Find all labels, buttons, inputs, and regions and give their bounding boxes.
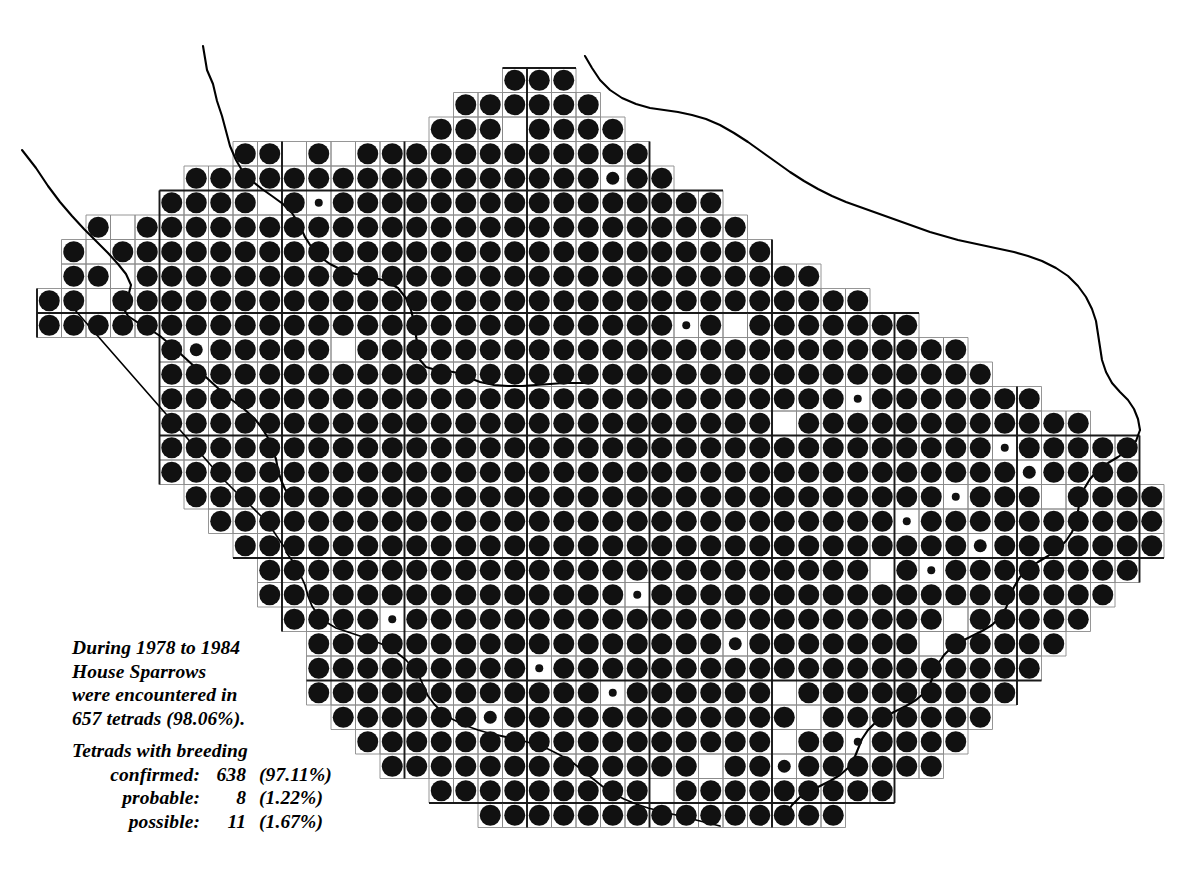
tetrad-dot-confirmed [798, 339, 819, 360]
tetrad-dot-confirmed [1043, 413, 1064, 434]
legend-row-probable: probable:8(1.22%) [72, 786, 402, 810]
tetrad-dot-confirmed [161, 388, 182, 409]
tetrad-dot-confirmed [872, 756, 893, 777]
tetrad-dot-confirmed [284, 241, 305, 262]
tetrad-dot-confirmed [357, 486, 378, 507]
tetrad-dot-confirmed [700, 560, 721, 581]
legend-percent-probable: (1.22%) [246, 786, 359, 810]
tetrad-dot-confirmed [872, 707, 893, 728]
tetrad-dot-confirmed [725, 339, 746, 360]
tetrad-dot-confirmed [847, 756, 868, 777]
tetrad-dot-confirmed [455, 143, 476, 164]
tetrad-dot-confirmed [382, 535, 403, 556]
tetrad-dot-confirmed [333, 266, 354, 287]
tetrad-dot-confirmed [529, 560, 550, 581]
tetrad-dot-confirmed [945, 682, 966, 703]
tetrad-dot-confirmed [798, 413, 819, 434]
tetrad-dot-confirmed [357, 511, 378, 532]
tetrad-dot-confirmed [553, 143, 574, 164]
tetrad-dot-confirmed [896, 388, 917, 409]
tetrad-dot-confirmed [749, 658, 770, 679]
tetrad-dot-confirmed [823, 633, 844, 654]
tetrad-dot-confirmed [455, 388, 476, 409]
tetrad-dot-confirmed [284, 364, 305, 385]
tetrad-dot-confirmed [627, 511, 648, 532]
tetrad-dot-confirmed [553, 535, 574, 556]
tetrad-dot-confirmed [504, 241, 525, 262]
tetrad-dot-confirmed [431, 584, 452, 605]
tetrad-dot-confirmed [602, 413, 623, 434]
tetrad-dot-confirmed [480, 143, 501, 164]
tetrad-dot-confirmed [921, 535, 942, 556]
tetrad-dot-confirmed [529, 217, 550, 238]
tetrad-dot-confirmed [504, 143, 525, 164]
tetrad-dot-confirmed [186, 168, 207, 189]
tetrad-dot-confirmed [235, 364, 256, 385]
tetrad-dot-confirmed [798, 462, 819, 483]
tetrad-dot-confirmed [627, 609, 648, 630]
tetrad-dot-confirmed [357, 168, 378, 189]
tetrad-dot-confirmed [308, 584, 329, 605]
tetrad-dot-confirmed [847, 560, 868, 581]
tetrad-dot-confirmed [602, 388, 623, 409]
tetrad-dot-confirmed [749, 388, 770, 409]
tetrad-dot-confirmed [259, 266, 280, 287]
tetrad-dot-confirmed [357, 584, 378, 605]
tetrad-dot-confirmed [651, 266, 672, 287]
tetrad-dot-confirmed [970, 511, 991, 532]
tetrad-dot-confirmed [284, 315, 305, 336]
tetrad-dot-confirmed [725, 486, 746, 507]
tetrad-dot-confirmed [676, 707, 697, 728]
tetrad-dot-confirmed [896, 707, 917, 728]
tetrad-dot-confirmed [480, 633, 501, 654]
tetrad-dot-possible [927, 566, 935, 574]
tetrad-dot-confirmed [308, 266, 329, 287]
tetrad-dot-confirmed [578, 609, 599, 630]
tetrad-dot-confirmed [578, 364, 599, 385]
tetrad-dot-confirmed [725, 413, 746, 434]
tetrad-dot-confirmed [284, 437, 305, 458]
tetrad-dot-confirmed [774, 486, 795, 507]
tetrad-dot-confirmed [406, 707, 427, 728]
tetrad-dot-confirmed [357, 290, 378, 311]
tetrad-dot-confirmed [627, 143, 648, 164]
tetrad-dot-possible [682, 321, 690, 329]
tetrad-dot-confirmed [431, 682, 452, 703]
tetrad-dot-confirmed [700, 584, 721, 605]
tetrad-dot-confirmed [651, 486, 672, 507]
tetrad-dot-confirmed [504, 168, 525, 189]
tetrad-dot-confirmed [651, 290, 672, 311]
tetrad-dot-confirmed [1019, 437, 1040, 458]
tetrad-dot-confirmed [676, 560, 697, 581]
tetrad-dot-possible [633, 591, 641, 599]
tetrad-dot-confirmed [847, 633, 868, 654]
tetrad-dot-confirmed [63, 241, 84, 262]
tetrad-dot-confirmed [406, 609, 427, 630]
tetrad-dot-confirmed [749, 609, 770, 630]
tetrad-dot-confirmed [504, 609, 525, 630]
tetrad-dot-confirmed [676, 584, 697, 605]
tetrad-dot-confirmed [137, 315, 158, 336]
tetrad-dot-confirmed [553, 119, 574, 140]
tetrad-dot-confirmed [749, 682, 770, 703]
tetrad-dot-confirmed [357, 143, 378, 164]
tetrad-dot-confirmed [455, 217, 476, 238]
tetrad-dot-confirmed [1043, 437, 1064, 458]
tetrad-dot-confirmed [308, 462, 329, 483]
tetrad-dot-confirmed [210, 437, 231, 458]
tetrad-dot-confirmed [872, 658, 893, 679]
legend-count-possible: 11 [200, 810, 246, 834]
tetrad-dot-confirmed [210, 413, 231, 434]
tetrad-dot-confirmed [994, 535, 1015, 556]
tetrad-dot-confirmed [529, 143, 550, 164]
tetrad-dot-confirmed [455, 315, 476, 336]
tetrad-dot-confirmed [921, 462, 942, 483]
tetrad-dot-confirmed [700, 413, 721, 434]
tetrad-dot-confirmed [431, 364, 452, 385]
tetrad-dot-confirmed [235, 511, 256, 532]
tetrad-dot-confirmed [161, 290, 182, 311]
tetrad-dot-confirmed [872, 609, 893, 630]
tetrad-dot-confirmed [357, 266, 378, 287]
tetrad-dot-confirmed [774, 584, 795, 605]
tetrad-dot-confirmed [406, 143, 427, 164]
